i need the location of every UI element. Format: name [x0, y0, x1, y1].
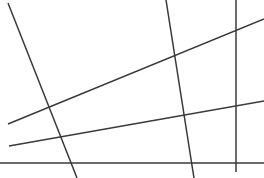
figure-canvas	[0, 0, 264, 178]
line-arrangement-svg	[0, 0, 264, 178]
canvas-background	[0, 0, 264, 178]
